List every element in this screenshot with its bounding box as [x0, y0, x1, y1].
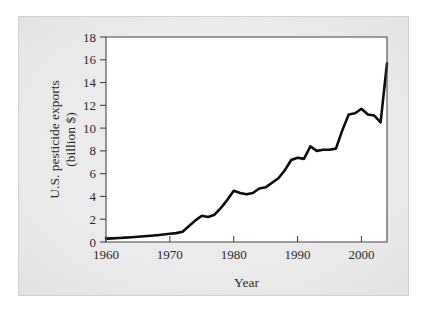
x-axis-title: Year	[234, 275, 259, 290]
figure-frame: 19601970198019902000 024681012141618 Yea…	[18, 16, 409, 296]
y-tick-label: 14	[83, 75, 97, 90]
y-axis-title-line-2: (billion $)	[63, 112, 78, 166]
y-axis-title-line-1: U.S. pesticide exports	[47, 80, 62, 198]
y-tick-label: 10	[83, 121, 96, 136]
y-tick-label: 6	[90, 166, 97, 181]
x-tick-label: 1960	[93, 247, 119, 262]
y-tick-label: 4	[90, 189, 97, 204]
y-tick-label: 0	[90, 235, 97, 250]
plot-area: 19601970198019902000 024681012141618	[83, 30, 387, 263]
figure-page: 19601970198019902000 024681012141618 Yea…	[0, 0, 427, 321]
y-tick-label: 18	[83, 30, 96, 45]
y-axis-title: U.S. pesticide exports (billion $)	[47, 80, 78, 198]
y-tick-label: 16	[83, 52, 97, 67]
y-tick-label: 2	[90, 212, 97, 227]
y-tick-label: 12	[83, 98, 96, 113]
y-tick-label: 8	[90, 143, 97, 158]
x-tick-label: 1980	[221, 247, 247, 262]
x-axis-tick-labels: 19601970198019902000	[93, 247, 374, 262]
y-axis-ticks	[100, 37, 106, 242]
plot-background	[106, 37, 387, 242]
x-tick-label: 1970	[157, 247, 183, 262]
x-tick-label: 1990	[285, 247, 311, 262]
y-axis-tick-labels: 024681012141618	[83, 30, 97, 250]
x-tick-label: 2000	[348, 247, 374, 262]
pesticide-exports-line-chart: 19601970198019902000 024681012141618 Yea…	[19, 17, 408, 295]
